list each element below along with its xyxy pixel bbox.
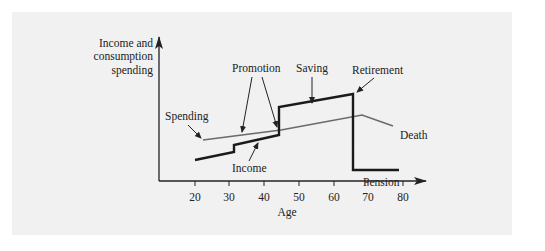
income-line — [195, 94, 399, 170]
promotion-annotation: Promotion — [232, 62, 281, 74]
svg-text:40: 40 — [258, 191, 270, 203]
svg-text:consumption: consumption — [94, 50, 154, 63]
svg-text:Income and: Income and — [99, 37, 153, 49]
death-annotation: Death — [400, 129, 428, 141]
pension-annotation: Pension — [363, 176, 400, 188]
svg-text:30: 30 — [223, 191, 235, 203]
svg-text:20: 20 — [189, 191, 201, 203]
spending-annotation: Spending — [165, 110, 209, 123]
svg-text:80: 80 — [397, 191, 409, 203]
saving-annotation: Saving — [296, 62, 328, 75]
svg-text:70: 70 — [362, 191, 374, 203]
income-annotation: Income — [232, 162, 266, 174]
y-axis-label: Income and consumption spending — [94, 37, 154, 77]
spending-line — [203, 115, 393, 140]
svg-text:spending: spending — [111, 64, 153, 77]
x-axis-label: Age — [277, 206, 296, 219]
svg-text:60: 60 — [328, 191, 340, 203]
retirement-annotation: Retirement — [352, 64, 404, 76]
lifecycle-chart: 20 30 40 50 60 70 80 Age Income and cons… — [0, 0, 545, 251]
x-tick-labels: 20 30 40 50 60 70 80 — [189, 191, 409, 203]
svg-text:50: 50 — [293, 191, 305, 203]
